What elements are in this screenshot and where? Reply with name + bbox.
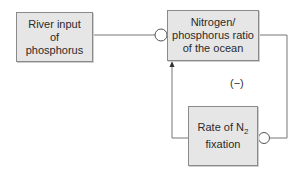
node-np-ratio: Nitrogen/ phosphorus ratio of the ocean: [167, 10, 259, 61]
node-label-line2: fixation: [206, 138, 241, 151]
node-river-input: River input of phosphorus: [16, 12, 93, 62]
node-label: Nitrogen/ phosphorus ratio of the ocean: [170, 16, 256, 55]
negative-effect-circle-icon: [259, 133, 270, 144]
arrowhead-icon: [170, 61, 175, 67]
negative-effect-circle-icon: [155, 29, 167, 41]
loop-sign-label: (−): [230, 77, 244, 89]
edge-ratio-to-fixation: [259, 35, 287, 138]
edge-fixation-to-ratio: [172, 66, 188, 138]
node-label-line1: Rate of N2: [198, 121, 249, 138]
node-n2-fixation: Rate of N2 fixation: [188, 106, 258, 166]
node-label: River input of phosphorus: [23, 18, 87, 57]
